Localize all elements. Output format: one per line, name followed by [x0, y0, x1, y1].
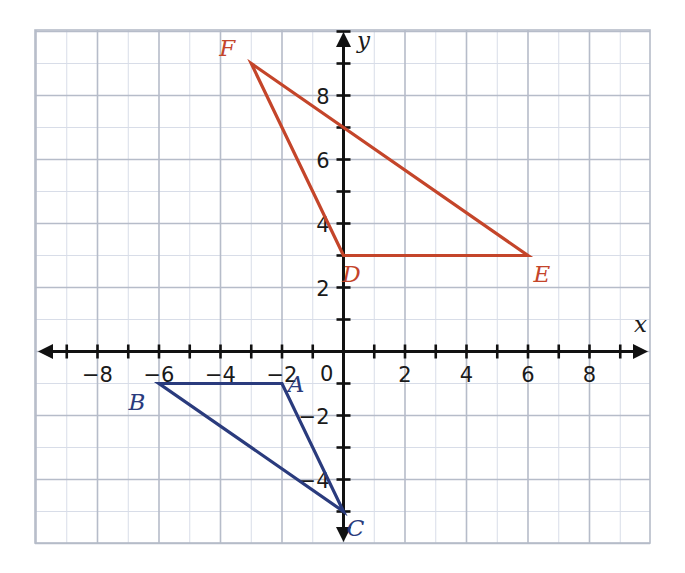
x-axis-label: x — [634, 311, 647, 337]
coordinate-graph-figure: −8−6−4−224688642−2−4 ABCDEF x y 0 — [0, 0, 685, 573]
y-axis-label: y — [356, 27, 371, 53]
vertex-label-b: B — [128, 389, 146, 415]
vertex-label-d: D — [341, 261, 360, 287]
x-tick-label: −8 — [82, 363, 113, 387]
vertex-label-a: A — [286, 371, 305, 397]
y-tick-label: 2 — [316, 277, 329, 301]
x-axis-arrow-left — [38, 344, 53, 359]
graph-canvas: −8−6−4−224688642−2−4 ABCDEF x y 0 — [0, 0, 685, 573]
x-tick-label: 4 — [460, 363, 473, 387]
vertex-label-f: F — [218, 35, 236, 61]
vertex-label-e: E — [533, 261, 551, 287]
x-tick-label: 2 — [398, 363, 411, 387]
origin-zero-label: 0 — [320, 362, 333, 386]
x-axis-arrow-right — [633, 344, 648, 359]
x-tick-label: 8 — [583, 363, 596, 387]
y-axis-arrow-up — [336, 32, 351, 47]
y-tick-label: 6 — [316, 149, 329, 173]
y-tick-label: 8 — [316, 85, 329, 109]
vertex-label-c: C — [347, 515, 365, 541]
x-tick-label: 6 — [521, 363, 534, 387]
